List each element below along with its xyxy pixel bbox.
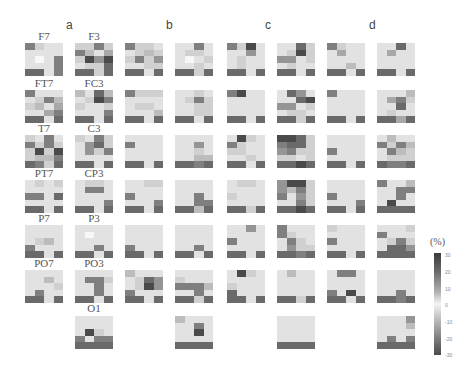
- heatmap-cell: [154, 277, 164, 284]
- heatmap-tile: [327, 135, 365, 168]
- heatmap-cell: [296, 238, 306, 245]
- heatmap-cell: [185, 245, 195, 252]
- heatmap-cell: [327, 110, 337, 117]
- heatmap-cell: [406, 225, 416, 232]
- heatmap-cell: [387, 206, 397, 213]
- heatmap-cell: [54, 283, 64, 290]
- heatmap-cell: [204, 103, 214, 110]
- heatmap-cell: [237, 200, 247, 207]
- heatmap-cell: [406, 232, 416, 239]
- heatmap-cell: [194, 69, 204, 76]
- heatmap-cell: [54, 69, 64, 76]
- heatmap-cell: [194, 251, 204, 258]
- heatmap-cell: [194, 103, 204, 110]
- heatmap-cell: [125, 200, 135, 207]
- heatmap-cell: [306, 232, 316, 239]
- heatmap-cell: [327, 296, 337, 303]
- heatmap-cell: [227, 69, 237, 76]
- heatmap-cell: [296, 148, 306, 155]
- heatmap-cell: [306, 180, 316, 187]
- heatmap-cell: [125, 290, 135, 297]
- heatmap-cell: [44, 251, 54, 258]
- heatmap-cell: [406, 90, 416, 97]
- heatmap-tile: [125, 225, 163, 258]
- heatmap-cell: [35, 50, 45, 57]
- heatmap-cell: [337, 56, 347, 63]
- heatmap-cell: [104, 232, 114, 239]
- heatmap-cell: [237, 161, 247, 168]
- heatmap-cell: [237, 193, 247, 200]
- heatmap-cell: [237, 43, 247, 50]
- heatmap-cell: [277, 142, 287, 149]
- heatmap-cell: [144, 90, 154, 97]
- heatmap-cell: [356, 245, 366, 252]
- heatmap-cell: [104, 342, 114, 349]
- heatmap-cell: [35, 206, 45, 213]
- heatmap-cell: [277, 316, 287, 323]
- heatmap-cell: [104, 323, 114, 330]
- heatmap-cell: [287, 110, 297, 117]
- heatmap-cell: [356, 290, 366, 297]
- heatmap-cell: [387, 329, 397, 336]
- heatmap-cell: [44, 155, 54, 162]
- heatmap-tile: [327, 180, 365, 213]
- heatmap-tile: [277, 180, 315, 213]
- channel-label-o1: O1: [74, 302, 114, 314]
- heatmap-cell: [356, 206, 366, 213]
- heatmap-cell: [356, 225, 366, 232]
- heatmap-tile: [125, 90, 163, 123]
- heatmap-cell: [256, 296, 266, 303]
- heatmap-cell: [175, 225, 185, 232]
- heatmap-cell: [204, 277, 214, 284]
- heatmap-cell: [154, 187, 164, 194]
- heatmap-cell: [356, 135, 366, 142]
- heatmap-cell: [377, 277, 387, 284]
- heatmap-cell: [256, 135, 266, 142]
- heatmap-cell: [277, 270, 287, 277]
- heatmap-cell: [387, 277, 397, 284]
- heatmap-cell: [125, 238, 135, 245]
- heatmap-cell: [377, 238, 387, 245]
- heatmap-cell: [75, 142, 85, 149]
- heatmap-cell: [356, 69, 366, 76]
- heatmap-cell: [306, 290, 316, 297]
- heatmap-cell: [94, 193, 104, 200]
- heatmap-cell: [204, 329, 214, 336]
- heatmap-cell: [85, 180, 95, 187]
- heatmap-cell: [135, 206, 145, 213]
- heatmap-cell: [387, 238, 397, 245]
- heatmap-cell: [327, 251, 337, 258]
- heatmap-cell: [35, 296, 45, 303]
- heatmap-tile: [227, 225, 265, 258]
- heatmap-cell: [237, 116, 247, 123]
- heatmap-cell: [387, 290, 397, 297]
- heatmap-cell: [277, 43, 287, 50]
- heatmap-cell: [327, 238, 337, 245]
- heatmap-cell: [306, 225, 316, 232]
- heatmap-cell: [327, 50, 337, 57]
- heatmap-cell: [296, 103, 306, 110]
- heatmap-cell: [287, 206, 297, 213]
- heatmap-cell: [327, 116, 337, 123]
- heatmap-cell: [306, 316, 316, 323]
- heatmap-cell: [277, 56, 287, 63]
- heatmap-cell: [356, 232, 366, 239]
- panel-label-d: d: [369, 18, 376, 32]
- colorbar-tick: -30: [445, 352, 452, 358]
- heatmap-cell: [35, 187, 45, 194]
- heatmap-cell: [356, 161, 366, 168]
- heatmap-cell: [377, 180, 387, 187]
- heatmap-cell: [377, 110, 387, 117]
- heatmap-cell: [287, 232, 297, 239]
- heatmap-cell: [175, 161, 185, 168]
- heatmap-cell: [296, 329, 306, 336]
- heatmap-cell: [237, 97, 247, 104]
- heatmap-tile: [25, 43, 63, 76]
- heatmap-cell: [194, 180, 204, 187]
- heatmap-cell: [246, 290, 256, 297]
- heatmap-tile: [227, 270, 265, 303]
- heatmap-cell: [396, 90, 406, 97]
- heatmap-cell: [306, 296, 316, 303]
- heatmap-cell: [85, 200, 95, 207]
- heatmap-cell: [94, 290, 104, 297]
